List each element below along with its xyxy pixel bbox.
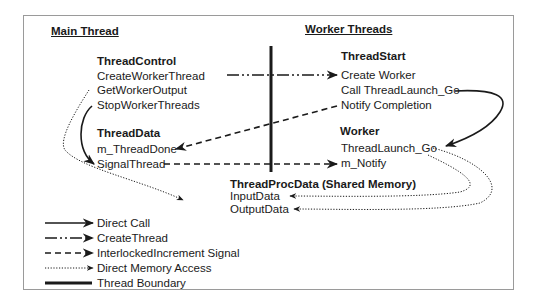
main-thread-header: Main Thread	[51, 25, 119, 38]
thread-launch-go-item: ThreadLaunch_Go	[341, 142, 437, 155]
thread-start-title: ThreadStart	[341, 50, 406, 63]
thread-data-title: ThreadData	[97, 127, 160, 140]
legend-createthread-label: CreateThread	[97, 232, 168, 245]
stop-worker-threads-item: StopWorkerThreads	[97, 99, 200, 112]
create-worker-thread-item: CreateWorkerThread	[97, 70, 205, 83]
m-notify-item: m_Notify	[341, 157, 386, 170]
legend-memory-access-label: Direct Memory Access	[97, 262, 211, 275]
legend-boundary-label: Thread Boundary	[97, 277, 186, 290]
worker-title: Worker	[340, 125, 379, 138]
call-thread-launch-go-item: Call ThreadLaunch_Go	[341, 84, 460, 97]
signal-done-connector	[176, 106, 337, 149]
connector-layer	[0, 0, 538, 308]
direct-call-launch-connector	[446, 91, 503, 146]
signal-thread-item: SignalThread	[97, 158, 165, 171]
create-worker-item: Create Worker	[341, 69, 416, 82]
m-thread-done-item: m_ThreadDone	[97, 143, 177, 156]
notify-completion-item: Notify Completion	[341, 99, 432, 112]
input-data-item: InputData	[230, 190, 280, 203]
worker-threads-header: Worker Threads	[305, 23, 392, 36]
thread-control-title: ThreadControl	[97, 55, 176, 68]
output-data-item: OutputData	[230, 203, 289, 216]
legend-direct-call-label: Direct Call	[97, 217, 150, 230]
legend-signal-label: InterlockedIncrement Signal	[97, 247, 240, 260]
direct-call-signal-connector	[81, 106, 94, 164]
get-worker-output-item: GetWorkerOutput	[97, 84, 187, 97]
